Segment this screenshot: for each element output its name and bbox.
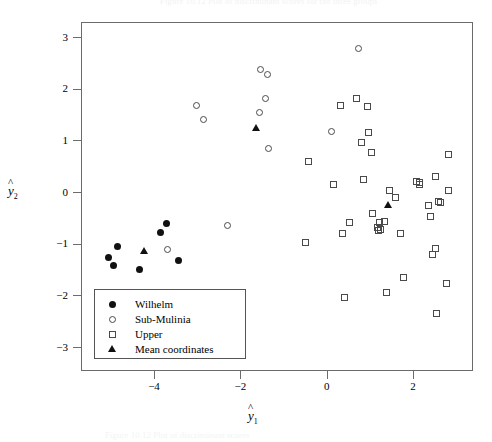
scatter-point [384,201,392,208]
scatter-point [400,274,407,281]
x-tick-mark [413,371,414,379]
legend-label: Mean coordinates [135,342,214,356]
x-tick-label: −4 [139,381,169,392]
x-tick-label: −2 [225,381,255,392]
scatter-point [330,181,337,188]
legend-item-wilhelm: Wilhelm [95,296,247,312]
scatter-point [175,257,182,264]
scatter-point [429,251,436,258]
scatter-point [200,116,207,123]
legend-item-mean: Mean coordinates [95,341,247,357]
legend-marker-cell [103,341,127,357]
scatter-point [305,158,312,165]
legend-marker-cell [103,311,127,327]
x-tick-mark [240,371,241,379]
scatter-point [265,145,272,152]
scatter-point [140,247,148,254]
scatter-point [445,187,452,194]
filled-triangle-icon [108,345,116,352]
y-tick-mark [73,192,81,193]
y-axis-title-sub: 2 [14,192,18,201]
legend-item-upper: Upper [95,326,247,342]
y-axis-title-hat: ^ [8,176,13,189]
scatter-point [445,151,452,158]
y-tick-label: 1 [40,135,68,146]
scatter-point [355,45,362,52]
y-tick-label: −3 [40,342,68,353]
x-tick-label: 2 [398,381,428,392]
x-axis-title: ^ y1 [248,409,258,428]
scatter-point [262,95,269,102]
scatter-point [443,280,450,287]
scatter-point [358,139,365,146]
scatter-point [364,103,371,110]
y-tick-label: 3 [40,32,68,43]
y-tick-label: 0 [40,187,68,198]
scatter-point [369,210,376,217]
filled-circle-icon [109,301,116,308]
scatter-point [353,95,360,102]
y-tick-label: 2 [40,83,68,94]
scatter-point [365,129,372,136]
scatter-point [368,149,375,156]
x-tick-mark [327,371,328,379]
x-tick-mark [154,371,155,379]
scatter-point [346,219,353,226]
legend-label: Sub-Mulinia [135,312,191,326]
scatter-point [433,310,440,317]
scatter-point [157,229,164,236]
scatter-point [341,294,348,301]
open-square-icon [109,331,116,338]
scatter-point [264,71,271,78]
scatter-point [383,289,390,296]
scatter-point [302,239,309,246]
legend-item-submulinia: Sub-Mulinia [95,311,247,327]
scatter-point [224,222,231,229]
scatter-point [193,102,200,109]
scatter-point [416,181,423,188]
open-circle-icon [109,316,116,323]
y-tick-mark [73,140,81,141]
legend-marker-cell [103,326,127,342]
y-tick-mark [73,347,81,348]
scatter-point [339,230,346,237]
scatter-point [386,187,393,194]
y-tick-label: −2 [40,290,68,301]
y-tick-label: −1 [40,238,68,249]
scatter-point [432,173,439,180]
scatter-point [381,218,388,225]
y-tick-mark [73,89,81,90]
scatter-point [114,243,121,250]
legend-marker-cell [103,296,127,312]
scatter-point [397,230,404,237]
y-tick-mark [73,37,81,38]
bottom-caption-ghost: Figure 10.12 Plot of discriminant scores [105,430,445,440]
scatter-point [427,213,434,220]
y-tick-mark [73,244,81,245]
x-axis-title-hat: ^ [248,401,253,414]
scatter-point [252,124,260,131]
legend-label: Upper [135,327,163,341]
y-axis-title: ^ y2 [8,184,18,203]
scatter-point [105,254,112,261]
scatter-point [437,199,444,206]
legend: WilhelmSub-MuliniaUpperMean coordinates [94,289,246,359]
scatter-point [136,266,143,273]
y-tick-mark [73,295,81,296]
top-caption-ghost: Figure 10.12 Plot of discriminant scores… [160,0,480,6]
scatter-point [164,246,171,253]
x-axis-title-sub: 1 [254,417,258,426]
x-tick-label: 0 [312,381,342,392]
scatter-point [360,176,367,183]
scatter-point [257,66,264,73]
figure-container: Figure 10.12 Plot of discriminant scores… [0,0,492,442]
scatter-point [392,194,399,201]
scatter-point [337,102,344,109]
legend-label: Wilhelm [135,297,173,311]
scatter-point [163,220,170,227]
scatter-point [256,109,263,116]
scatter-point [425,202,432,209]
scatter-point [375,227,382,234]
scatter-point [328,128,335,135]
scatter-point [110,262,117,269]
